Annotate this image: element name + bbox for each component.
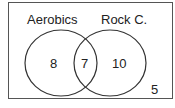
rock-climbing-label: Rock C.: [101, 12, 147, 27]
rock-climbing-only-count: 10: [112, 56, 126, 71]
outside-count: 5: [151, 82, 158, 97]
aerobics-label: Aerobics: [27, 12, 78, 27]
venn-diagram: Aerobics Rock C. 8 7 10 5: [0, 0, 175, 108]
aerobics-only-count: 8: [50, 56, 57, 71]
intersection-count: 7: [81, 56, 88, 71]
